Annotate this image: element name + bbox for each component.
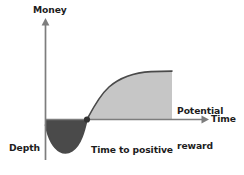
annotation-potential-reward: Potential reward <box>177 82 223 174</box>
cash-flow-j-curve-chart: Money Time Depth of hole Time to positiv… <box>0 0 244 175</box>
annotation-depth-of-hole-line1: Depth <box>9 142 44 154</box>
positive-area-potential-reward <box>87 71 172 119</box>
annotation-time-to-positive-cash-flow: Time to positive cash flow <box>91 121 173 175</box>
break-even-point-marker <box>84 116 90 122</box>
annotation-potential-reward-line1: Potential <box>177 105 223 117</box>
y-axis-label-money: Money <box>33 4 67 16</box>
annotation-potential-reward-line2: reward <box>177 140 223 152</box>
annotation-depth-of-hole: Depth of hole <box>9 119 44 175</box>
negative-area-depth-of-hole <box>46 120 88 153</box>
y-axis-arrowhead <box>42 18 50 26</box>
annotation-time-to-positive-cash-flow-line1: Time to positive <box>91 144 173 156</box>
